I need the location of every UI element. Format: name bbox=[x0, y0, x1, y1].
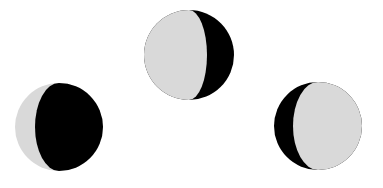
moon-top-lit bbox=[144, 10, 207, 100]
moon-phases-diagram bbox=[0, 0, 383, 188]
moon-top bbox=[144, 10, 234, 100]
moon-left-shadow bbox=[35, 83, 103, 171]
moon-left bbox=[15, 83, 103, 171]
moon-right-lit bbox=[293, 82, 362, 170]
moon-right bbox=[274, 82, 362, 170]
